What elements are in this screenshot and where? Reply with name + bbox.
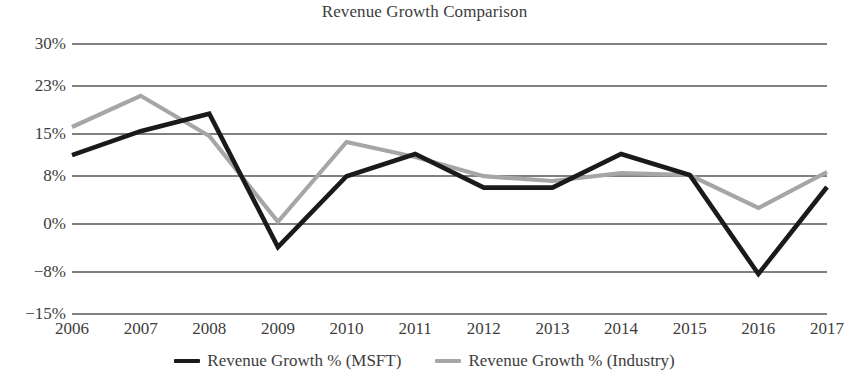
series-layer [72,43,827,313]
y-axis-tick-label: 0% [0,215,66,232]
y-axis-tick-label: 30% [0,35,66,52]
x-axis-tick-label: 2011 [398,318,431,341]
x-axis-tick-label: 2006 [55,318,89,341]
legend-item[interactable]: Revenue Growth % (MSFT) [174,352,401,369]
revenue-growth-chart: Revenue Growth Comparison 30%23%15%8%0%−… [0,0,849,378]
series-line [72,114,827,274]
legend-label: Revenue Growth % (MSFT) [207,352,401,369]
x-axis-labels: 2006200720082009201020112012201320142015… [72,318,827,344]
x-axis-tick-label: 2012 [467,318,501,341]
y-axis-tick-label: 15% [0,125,66,142]
series-line [72,96,827,222]
x-axis-tick-label: 2016 [741,318,775,341]
x-axis-tick-label: 2009 [261,318,295,341]
x-axis-tick-label: 2015 [673,318,707,341]
x-axis-tick-label: 2014 [604,318,638,341]
y-axis-tick-label: 8% [0,167,66,184]
plot-area [72,43,827,313]
legend-swatch-icon [174,359,200,363]
x-axis-tick-label: 2008 [192,318,226,341]
chart-legend: Revenue Growth % (MSFT)Revenue Growth % … [0,352,849,369]
legend-swatch-icon [435,359,461,363]
y-axis-tick-label: −8% [0,263,66,280]
x-axis-tick-label: 2007 [124,318,158,341]
legend-label: Revenue Growth % (Industry) [468,352,674,369]
legend-item[interactable]: Revenue Growth % (Industry) [435,352,674,369]
x-axis-tick-label: 2010 [330,318,364,341]
x-axis-tick-label: 2013 [535,318,569,341]
chart-title: Revenue Growth Comparison [0,2,849,22]
gridline [72,313,827,315]
y-axis-tick-label: 23% [0,77,66,94]
x-axis-tick-label: 2017 [810,318,844,341]
